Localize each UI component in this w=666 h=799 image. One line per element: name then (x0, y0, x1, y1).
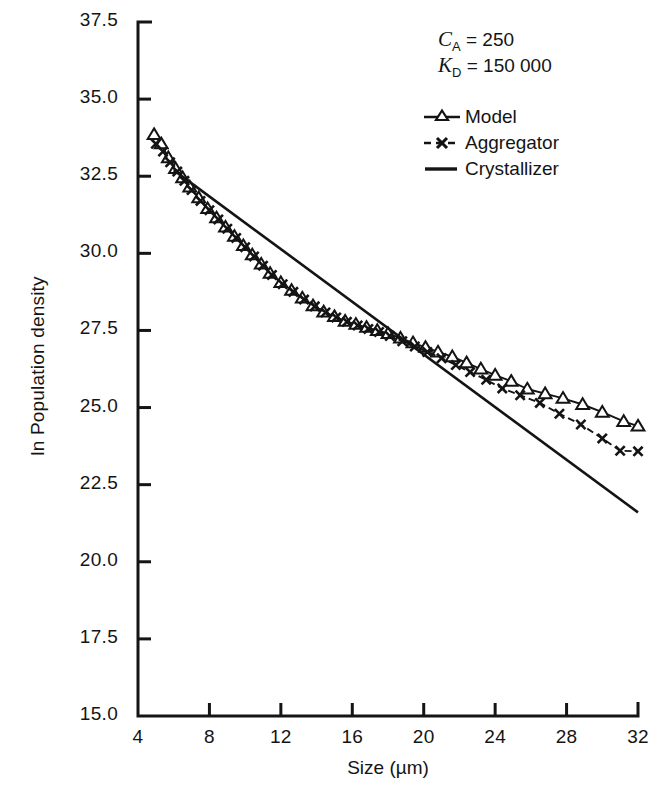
y-tick-label: 22.5 (34, 472, 118, 494)
data-point-marker (616, 446, 625, 455)
x-tick-label: 4 (108, 726, 168, 748)
x-tick-label: 28 (537, 726, 597, 748)
y-tick-label: 15.0 (34, 703, 118, 725)
series-aggregator (151, 139, 642, 456)
data-point-marker (460, 357, 473, 368)
x-tick-label: 24 (465, 726, 525, 748)
data-point-marker (498, 384, 507, 393)
data-point-marker (598, 434, 607, 443)
y-tick-label: 32.5 (34, 163, 118, 185)
data-point-marker (466, 367, 475, 376)
data-point-marker (489, 369, 502, 380)
x-tick-label: 32 (608, 726, 666, 748)
y-tick-label: 27.5 (34, 317, 118, 339)
data-point-marker (148, 128, 161, 139)
x-tick-label: 16 (322, 726, 382, 748)
y-tick-label: 35.0 (34, 86, 118, 108)
data-point-marker (535, 398, 544, 407)
data-point-marker (617, 415, 630, 426)
x-tick-label: 12 (251, 726, 311, 748)
data-point-marker (633, 447, 642, 456)
data-point-marker (576, 420, 585, 429)
x-tick-label: 20 (394, 726, 454, 748)
y-tick-label: 20.0 (34, 549, 118, 571)
series-model (148, 128, 645, 430)
data-point-marker (474, 363, 487, 374)
y-tick-label: 17.5 (34, 626, 118, 648)
y-tick-label: 37.5 (34, 9, 118, 31)
data-point-marker (555, 409, 564, 418)
y-tick-label: 25.0 (34, 395, 118, 417)
y-tick-label: 30.0 (34, 240, 118, 262)
x-tick-label: 8 (179, 726, 239, 748)
data-point-marker (516, 391, 525, 400)
series-crystallizer (174, 170, 638, 512)
figure: ln Population density Size (µm) CA = 250… (0, 0, 666, 799)
